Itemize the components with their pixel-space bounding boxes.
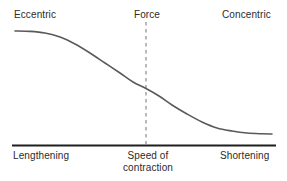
force-velocity-curve-figure: Eccentric Force Concentric Lengthening S… (0, 0, 287, 181)
label-speed-of-contraction-line2: contraction (123, 162, 173, 173)
label-speed-of-contraction: Speed of contraction (110, 150, 186, 174)
label-lengthening: Lengthening (13, 150, 69, 162)
label-eccentric: Eccentric (14, 9, 56, 21)
label-concentric: Concentric (222, 9, 271, 21)
label-shortening: Shortening (220, 150, 269, 162)
force-velocity-curve-line (15, 31, 272, 134)
label-force: Force (116, 9, 178, 21)
label-speed-of-contraction-line1: Speed of (128, 150, 169, 161)
